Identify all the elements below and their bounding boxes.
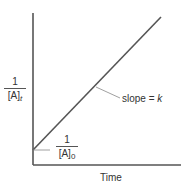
- y-label-numerator: 1: [4, 76, 26, 89]
- x-axis-label: Time: [100, 172, 122, 183]
- plot-area: [0, 0, 186, 184]
- data-line: [33, 17, 161, 150]
- slope-leader: [96, 87, 120, 98]
- intercept-denominator: [A]0: [56, 147, 78, 162]
- slope-label: slope = k: [122, 93, 162, 104]
- y-label-denominator: [A]t: [4, 89, 26, 104]
- intercept-numerator: 1: [56, 134, 78, 147]
- intercept-label: 1 [A]0: [56, 134, 78, 162]
- y-axis-label: 1 [A]t: [4, 76, 26, 104]
